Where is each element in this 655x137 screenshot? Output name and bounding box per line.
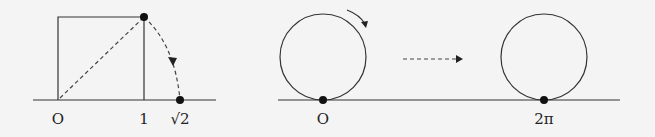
corner-point (140, 13, 148, 21)
sqrt-two-point (176, 96, 184, 104)
translation-arrow-icon (456, 55, 463, 63)
rotation-arrow-icon (361, 21, 368, 28)
end-point (540, 96, 548, 104)
label-sqrt-two: √2 (170, 110, 189, 128)
start-point (319, 96, 327, 104)
right-figure: O 2π (278, 10, 620, 128)
square-diagonal (60, 17, 144, 98)
label-one: 1 (139, 110, 149, 128)
arc-arrow-icon (168, 57, 177, 66)
label-origin-left: O (52, 110, 64, 128)
label-origin-right: O (317, 110, 329, 128)
diagram-canvas: O 1 √2 O 2π (0, 0, 655, 137)
circle-end (501, 14, 587, 100)
circle-start (280, 14, 366, 100)
label-two-pi: 2π (534, 110, 554, 128)
left-figure: O 1 √2 (33, 13, 216, 128)
